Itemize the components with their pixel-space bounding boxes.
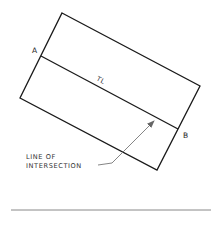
callout-line-1: LINE OF <box>26 153 56 161</box>
intersection-line-ab <box>41 56 178 129</box>
diagram-canvas: TL A B LINE OF INTERSECTION <box>0 0 216 232</box>
point-a-label: A <box>32 46 38 55</box>
plane-outline <box>20 13 200 170</box>
callout-line-2: INTERSECTION <box>26 162 82 170</box>
point-b-label: B <box>183 131 188 140</box>
true-length-label: TL <box>94 74 107 86</box>
